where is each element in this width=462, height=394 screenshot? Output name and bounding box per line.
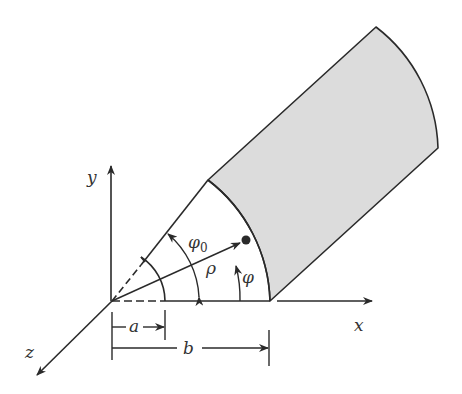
- rho-vector: [112, 243, 240, 301]
- phi-label: φ: [242, 267, 254, 287]
- z-axis-label: z: [24, 342, 35, 362]
- b-dimension-label: b: [183, 338, 194, 358]
- a-dimension-label: a: [129, 316, 139, 336]
- field-point: [242, 236, 251, 245]
- phi0-label: φ0: [188, 232, 208, 255]
- cylindrical-wedge-diagram: y x z φ0 ρ φ a b: [0, 0, 462, 394]
- rho-label: ρ: [205, 258, 216, 278]
- phi-angle-arc: [236, 266, 240, 301]
- wedge-upper-edge-dashed: [112, 265, 141, 301]
- x-axis-label: x: [354, 315, 364, 335]
- wedge-upper-edge: [141, 180, 208, 265]
- outer-curved-surface: [208, 27, 438, 301]
- y-axis-label: y: [86, 167, 97, 187]
- z-axis: [37, 301, 112, 375]
